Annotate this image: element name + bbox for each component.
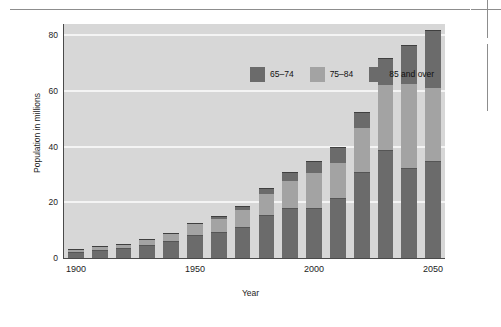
bar-segment — [68, 249, 84, 250]
y-tick-label: 40 — [36, 142, 58, 152]
bar-segment — [235, 227, 251, 258]
bar-1980 — [259, 188, 275, 258]
bar-1960 — [211, 216, 227, 258]
bar-segment — [116, 245, 132, 249]
bar-2030 — [378, 58, 394, 258]
bar-segment — [92, 246, 108, 247]
bar-segment — [211, 219, 227, 232]
bar-segment — [187, 223, 203, 225]
swatch-65-74-icon — [250, 67, 265, 82]
bar-segment — [211, 232, 227, 258]
x-tick-label: 2050 — [423, 264, 443, 274]
bar-segment — [139, 245, 155, 258]
bar-1990 — [282, 172, 298, 258]
y-axis-line — [63, 24, 64, 259]
x-tick-label: 1950 — [185, 264, 205, 274]
bar-1910 — [92, 247, 108, 258]
crop-mark-vertical-lower-icon — [487, 44, 488, 111]
bar-2010 — [330, 147, 346, 258]
bar-segment — [163, 234, 179, 241]
bar-segment — [330, 198, 346, 258]
bar-1970 — [235, 206, 251, 258]
y-axis-tick-labels: 020406080 — [36, 24, 58, 258]
bar-segment — [259, 194, 275, 215]
bar-segment — [259, 188, 275, 194]
bar-segment — [187, 224, 203, 235]
bar-1930 — [139, 239, 155, 258]
bar-segment — [330, 147, 346, 163]
bar-segment — [92, 250, 108, 258]
legend-label-85-over: 85 and over — [389, 69, 434, 79]
bar-segment — [139, 240, 155, 245]
bar-segment — [211, 216, 227, 219]
bar-segment — [425, 161, 441, 258]
page-top-rule — [10, 9, 470, 10]
bar-segment — [116, 244, 132, 245]
bar-segment — [378, 150, 394, 258]
bar-segment — [306, 173, 322, 208]
y-axis-title-wrap: Population in millions — [22, 24, 36, 258]
bar-2000 — [306, 161, 322, 258]
bar-segment — [187, 235, 203, 258]
bar-segment — [354, 128, 370, 172]
bar-1920 — [116, 244, 132, 258]
crop-mark-vertical-icon — [487, 0, 488, 38]
legend-label-65-74: 65–74 — [270, 69, 294, 79]
population-age-chart-figure: Population in millions 020406080 65–74 7… — [0, 0, 501, 327]
plot-area: 65–74 75–84 85 and over — [64, 24, 445, 258]
x-axis-title: Year — [0, 288, 501, 298]
bar-segment — [425, 88, 441, 161]
chart-legend: 65–74 75–84 85 and over — [250, 66, 450, 82]
bar-segment — [378, 85, 394, 150]
bar-1900 — [68, 249, 84, 258]
legend-label-75-84: 75–84 — [330, 69, 354, 79]
y-tick-label: 80 — [36, 30, 58, 40]
bar-segment — [163, 233, 179, 234]
bar-1950 — [187, 223, 203, 258]
bar-segment — [282, 208, 298, 258]
legend-item-85-over: 85 and over — [369, 67, 434, 82]
legend-item-65-74: 65–74 — [250, 67, 294, 82]
bar-segment — [163, 241, 179, 258]
bar-segment — [235, 210, 251, 227]
bar-segment — [282, 172, 298, 181]
y-tick-label: 60 — [36, 86, 58, 96]
bar-segment — [259, 215, 275, 258]
y-tick-label: 0 — [36, 253, 58, 263]
x-tick-label: 2000 — [304, 264, 324, 274]
bar-1940 — [163, 233, 179, 258]
bar-segment — [330, 163, 346, 199]
legend-item-75-84: 75–84 — [310, 67, 354, 82]
x-tick-label: 1900 — [66, 264, 86, 274]
bar-segment — [306, 208, 322, 258]
y-tick-label: 20 — [36, 197, 58, 207]
x-axis-line — [63, 258, 445, 259]
bar-segment — [354, 172, 370, 258]
bar-segment — [235, 206, 251, 210]
gridline — [64, 34, 445, 36]
bar-2050 — [425, 30, 441, 258]
bar-segment — [92, 247, 108, 250]
bar-segment — [68, 250, 84, 252]
swatch-85-over-icon — [369, 67, 384, 82]
bar-2020 — [354, 112, 370, 258]
bar-segment — [401, 84, 417, 168]
bar-segment — [139, 239, 155, 240]
bar-segment — [282, 181, 298, 209]
swatch-75-84-icon — [310, 67, 325, 82]
bar-segment — [354, 112, 370, 128]
bar-segment — [306, 161, 322, 173]
bar-segment — [116, 248, 132, 258]
bar-segment — [401, 168, 417, 258]
crop-mark-horizontal-icon — [471, 9, 501, 10]
